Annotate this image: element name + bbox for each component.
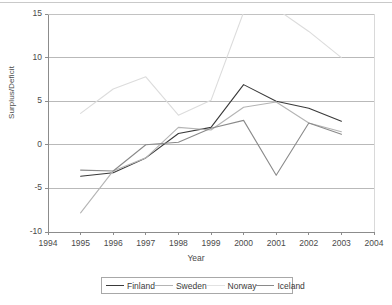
legend-swatch-icon (155, 285, 173, 286)
legend-swatch-icon (207, 285, 225, 286)
legend-item-finland[interactable]: Finland (106, 281, 155, 291)
plot-area: Surplus/Deficit 151050-5-10 199419951996… (0, 0, 392, 270)
chart-container: Surplus/Deficit 151050-5-10 199419951996… (0, 0, 392, 305)
data-series-lines (81, 9, 342, 213)
y-tick-label: 10 (16, 52, 42, 62)
legend-label: Finland (127, 281, 155, 291)
chart-legend: FinlandSwedenNorwayIceland (101, 277, 293, 294)
y-axis-label: Surplus/Deficit (7, 48, 16, 138)
x-axis-label: Year (0, 253, 392, 263)
y-tick-label: -10 (16, 226, 42, 236)
legend-swatch-icon (106, 285, 124, 286)
legend-swatch-icon (256, 285, 274, 286)
series-line-norway (81, 9, 342, 115)
series-line-sweden (81, 102, 342, 213)
axes (48, 14, 374, 232)
x-tick-label: 2004 (354, 238, 392, 248)
y-tick-label: -5 (16, 182, 42, 192)
y-tick-label: 15 (16, 8, 42, 18)
y-tick-label: 0 (16, 139, 42, 149)
plot-canvas (0, 0, 392, 270)
series-line-iceland (81, 120, 342, 175)
y-tick-label: 5 (16, 95, 42, 105)
legend-label: Iceland (277, 281, 304, 291)
legend-label: Norway (228, 281, 257, 291)
legend-item-norway[interactable]: Norway (207, 281, 257, 291)
legend-item-sweden[interactable]: Sweden (155, 281, 207, 291)
legend-item-iceland[interactable]: Iceland (256, 281, 304, 291)
legend-label: Sweden (176, 281, 207, 291)
